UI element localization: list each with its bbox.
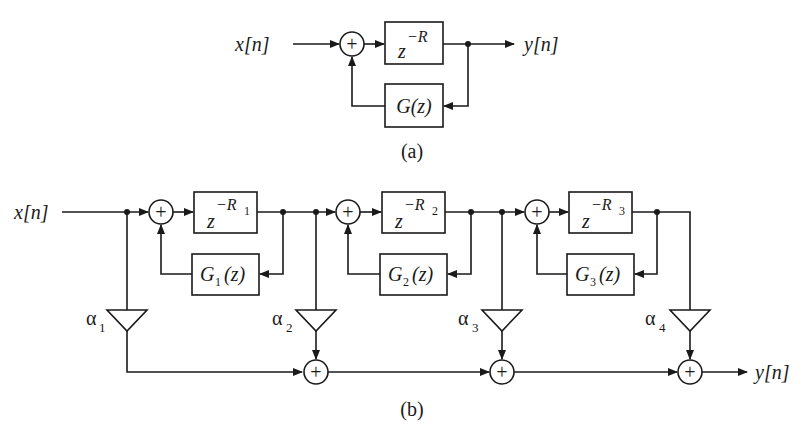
svg-text:G(z): G(z) <box>396 95 432 118</box>
diagram-b: x[n] + z −R 1 G 1 (z) + <box>13 192 789 421</box>
diagram-a: x[n] + z −R y[n] G(z) (a) <box>234 22 558 163</box>
svg-text:z: z <box>394 210 403 232</box>
svg-text:1: 1 <box>215 275 221 289</box>
svg-text:+: + <box>531 201 542 223</box>
gain-alpha-4: α 4 <box>645 307 710 335</box>
output-sum-2: + <box>490 360 514 384</box>
output-sum-1: + <box>304 360 328 384</box>
output-label-a: y[n] <box>522 33 558 56</box>
svg-text:G: G <box>200 263 215 285</box>
output-sum-3: + <box>678 360 702 384</box>
caption-b: (b) <box>400 398 423 421</box>
stage-2: + z −R 2 G 2 (z) <box>336 192 524 295</box>
svg-text:α: α <box>458 307 469 329</box>
svg-text:α: α <box>272 307 283 329</box>
block-diagram: x[n] + z −R y[n] G(z) (a) x[n] <box>0 0 808 432</box>
svg-text:1: 1 <box>244 204 250 218</box>
svg-text:+: + <box>342 201 353 223</box>
svg-text:2: 2 <box>403 275 409 289</box>
svg-text:z: z <box>397 40 406 62</box>
stage-1: + z −R 1 G 1 (z) <box>149 192 335 295</box>
svg-text:−R: −R <box>407 28 428 45</box>
svg-text:4: 4 <box>659 320 666 335</box>
svg-text:1: 1 <box>99 320 106 335</box>
svg-text:−R: −R <box>404 196 425 213</box>
svg-text:G: G <box>575 263 590 285</box>
svg-text:(z): (z) <box>412 263 433 286</box>
input-label-a: x[n] <box>234 33 269 55</box>
svg-text:3: 3 <box>619 204 625 218</box>
svg-text:3: 3 <box>590 275 596 289</box>
svg-text:(z): (z) <box>599 263 620 286</box>
caption-a: (a) <box>401 140 423 163</box>
svg-text:−R: −R <box>591 196 612 213</box>
feedback-wire-a <box>444 44 468 106</box>
svg-text:α: α <box>645 307 656 329</box>
feedback-block-a: G(z) <box>385 84 443 127</box>
svg-text:2: 2 <box>286 320 293 335</box>
svg-text:+: + <box>684 361 695 383</box>
svg-text:z: z <box>206 210 215 232</box>
svg-text:+: + <box>496 361 507 383</box>
gain-alpha-2: α 2 <box>272 307 336 335</box>
output-label-b: y[n] <box>753 361 789 384</box>
stage-3: + z −R 3 G 3 (z) <box>525 192 690 310</box>
svg-text:2: 2 <box>432 204 438 218</box>
svg-text:+: + <box>346 33 357 55</box>
svg-text:z: z <box>581 210 590 232</box>
feedback-return-a <box>352 57 385 106</box>
delay-block-a: z −R <box>385 22 443 64</box>
svg-text:G: G <box>388 263 403 285</box>
svg-text:3: 3 <box>472 320 479 335</box>
gain-alpha-3: α 3 <box>458 307 522 335</box>
sum-node-a: + <box>340 32 364 56</box>
svg-text:−R: −R <box>216 196 237 213</box>
svg-text:(z): (z) <box>224 263 245 286</box>
input-label-b: x[n] <box>13 201 48 223</box>
svg-text:α: α <box>86 307 97 329</box>
svg-text:+: + <box>310 361 321 383</box>
svg-text:+: + <box>155 201 166 223</box>
gain-alpha-1: α 1 <box>86 307 147 335</box>
